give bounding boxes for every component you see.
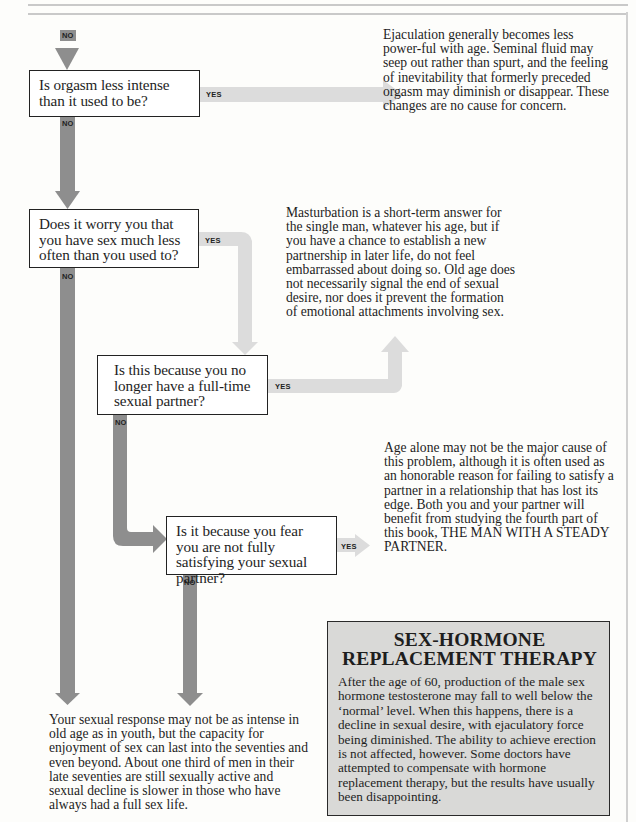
q2-no-label: NO bbox=[62, 272, 74, 281]
q2-yes-arrow bbox=[198, 232, 258, 355]
q3-no-label: NO bbox=[115, 418, 127, 427]
question-text: Is orgasm less intense than it used to b… bbox=[39, 76, 169, 109]
sidebar-title: SEX-HORMONE REPLACEMENT THERAPY bbox=[338, 630, 601, 668]
answer-masturbation: Masturbation is a short-term answer for … bbox=[286, 206, 518, 320]
q3-no-arrow bbox=[113, 414, 167, 553]
question-text: Does it worry you that you have sex much… bbox=[39, 215, 180, 263]
q1-no-arrow bbox=[55, 116, 80, 209]
question-box-sex-frequency: Does it worry you that you have sex much… bbox=[29, 209, 199, 268]
question-text: Is this because you no longer have a ful… bbox=[114, 361, 250, 409]
sidebar-body: After the age of 60, production of the m… bbox=[338, 675, 601, 805]
q1-no-label: NO bbox=[62, 119, 74, 128]
answer-age-alone: Age alone may not be the major cause of … bbox=[384, 441, 620, 555]
question-box-no-partner: Is this because you no longer have a ful… bbox=[97, 355, 268, 415]
sidebar-title-line1: SEX-HORMONE bbox=[338, 630, 601, 649]
q3-yes-label: YES bbox=[275, 382, 291, 391]
q1-yes-label: YES bbox=[206, 90, 222, 99]
q2-no-arrow bbox=[55, 267, 80, 705]
sidebar-title-line2: REPLACEMENT THERAPY bbox=[338, 649, 601, 668]
sex-hormone-therapy-box: SEX-HORMONE REPLACEMENT THERAPY After th… bbox=[327, 621, 610, 816]
q1-yes-arrow bbox=[199, 80, 403, 109]
q2-yes-label: YES bbox=[205, 236, 221, 245]
answer-ejaculation: Ejaculation generally becomes less power… bbox=[383, 28, 615, 113]
q4-no-arrow bbox=[177, 574, 203, 706]
question-box-satisfying-partner: Is it because you fear you are not fully… bbox=[166, 516, 337, 575]
entry-no-arrow bbox=[55, 48, 79, 70]
entry-no-label: NO bbox=[60, 30, 76, 41]
q4-yes-label: YES bbox=[341, 542, 357, 551]
answer-sexual-response: Your sexual response may not be as inten… bbox=[49, 713, 309, 812]
question-box-orgasm-intensity: Is orgasm less intense than it used to b… bbox=[29, 70, 200, 117]
